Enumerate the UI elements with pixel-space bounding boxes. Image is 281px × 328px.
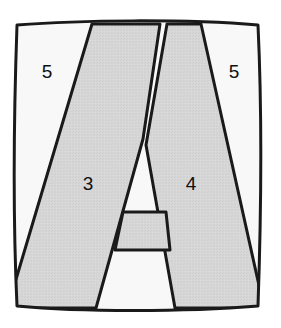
letter-a-crossbar: [115, 212, 170, 250]
letter-a-region-diagram: 5 5 3 4: [0, 0, 281, 328]
region-label-left-outer: 5: [42, 61, 53, 82]
region-label-right-outer: 5: [229, 61, 240, 82]
figure-container: 5 5 3 4: [0, 0, 281, 328]
region-label-left-stroke: 3: [83, 173, 94, 194]
region-label-right-stroke: 4: [186, 173, 197, 194]
